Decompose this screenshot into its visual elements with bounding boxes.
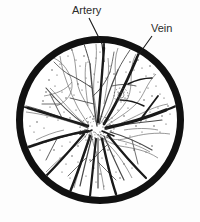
label-vein: Vein (151, 22, 172, 34)
fundus-illustration: Artery Vein (0, 0, 200, 222)
label-artery: Artery (72, 4, 102, 16)
